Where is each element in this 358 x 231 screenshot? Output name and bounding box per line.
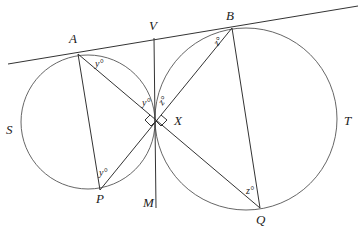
label-x: X xyxy=(173,113,183,128)
line-bq xyxy=(232,28,260,208)
circle-s xyxy=(21,55,155,189)
label-t: T xyxy=(344,113,352,128)
angle-z-at-q: z° xyxy=(245,185,254,196)
line-bp xyxy=(100,28,232,190)
line-aq xyxy=(78,54,260,208)
angle-z-at-x: z° xyxy=(155,94,169,108)
line-ap xyxy=(78,54,100,190)
tangent-line-ab xyxy=(8,6,358,64)
label-s: S xyxy=(6,122,13,137)
label-b: B xyxy=(226,8,234,23)
angle-z-at-b: z° xyxy=(210,35,224,49)
angle-y-at-p: y° xyxy=(98,167,107,178)
diagram-canvas: A V B X P M Q S T y° y° y° z° z° z° xyxy=(0,0,358,231)
label-p: P xyxy=(95,191,104,206)
angle-y-at-a: y° xyxy=(94,58,103,69)
angle-y-at-x: y° xyxy=(141,97,150,108)
label-a: A xyxy=(68,31,77,46)
label-m: M xyxy=(142,195,155,210)
geometry-diagram: A V B X P M Q S T y° y° y° z° z° z° xyxy=(0,0,358,231)
label-q: Q xyxy=(256,212,266,227)
label-v: V xyxy=(149,18,159,33)
